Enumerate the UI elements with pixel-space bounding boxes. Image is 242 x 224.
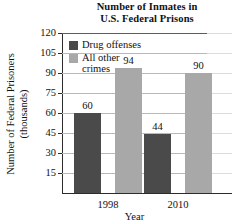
bar-value-label-2010-all-other-crimes: 90 (193, 60, 204, 71)
y-tick-label-75: 75 (46, 88, 57, 99)
chart-title: Number of Inmates in U.S. Federal Prison… (54, 1, 240, 25)
x-category-label-1998: 1998 (98, 199, 119, 210)
x-category-label-2010: 2010 (168, 199, 189, 210)
y-tick-label-120: 120 (40, 28, 56, 39)
legend-label-all-other-crimes: All other crimes (82, 52, 120, 75)
gridline-ext-120 (207, 33, 232, 34)
chart-title-line-1: Number of Inmates in (54, 1, 240, 13)
y-tick-mark-90 (58, 73, 62, 74)
chart-title-line-2: U.S. Federal Prisons (54, 13, 240, 25)
legend-swatch-drug-offenses (69, 41, 78, 50)
legend-label-drug-offenses-line-1: Drug offenses (82, 39, 141, 51)
bar-2010-drug-offenses: 44 (144, 134, 171, 193)
y-axis-label-text: Number of Federal Prisoners (thousands) (4, 53, 30, 175)
legend-item-all-other-crimes: All other crimes (69, 52, 157, 75)
bar-chart-figure: Number of Inmates in U.S. Federal Prison… (0, 0, 242, 224)
legend-item-drug-offenses: Drug offenses (69, 39, 157, 51)
bar-2010-all-other-crimes: 90 (185, 73, 212, 193)
legend-label-all-other-crimes-line-2: crimes (82, 63, 120, 75)
x-axis-label: Year (62, 211, 207, 222)
y-axis-label: Number of Federal Prisoners (thousands) (0, 30, 34, 198)
chart-legend: Drug offenses All other crimes (69, 39, 157, 76)
bar-value-label-1998-drug-offenses: 60 (82, 100, 93, 111)
legend-label-drug-offenses: Drug offenses (82, 39, 141, 51)
bar-1998-drug-offenses: 60 (74, 113, 101, 193)
y-tick-mark-120 (58, 33, 62, 34)
x-axis-line (62, 193, 232, 194)
y-tick-mark-30 (58, 153, 62, 154)
bar-value-label-2010-drug-offenses: 44 (152, 121, 163, 132)
y-tick-label-15: 15 (46, 168, 57, 179)
y-tick-mark-15 (58, 173, 62, 174)
bar-1998-all-other-crimes: 94 (115, 68, 142, 193)
y-tick-label-45: 45 (46, 128, 57, 139)
y-tick-mark-60 (58, 113, 62, 114)
y-tick-label-105: 105 (40, 48, 56, 59)
legend-label-all-other-crimes-line-1: All other (82, 52, 120, 64)
y-tick-mark-75 (58, 93, 62, 94)
y-axis-label-line-2: (thousands) (17, 53, 30, 175)
y-tick-label-30: 30 (46, 148, 57, 159)
gridline-ext-105 (207, 53, 232, 54)
legend-swatch-all-other-crimes (69, 54, 78, 63)
y-tick-label-60: 60 (46, 108, 57, 119)
y-axis-label-line-1: Number of Federal Prisoners (4, 53, 17, 175)
y-tick-label-90: 90 (46, 68, 57, 79)
y-tick-mark-45 (58, 133, 62, 134)
y-tick-mark-105 (58, 53, 62, 54)
gridline-120 (62, 33, 207, 34)
